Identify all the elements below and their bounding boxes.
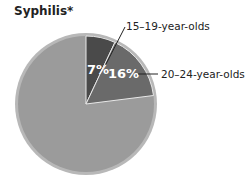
slice1-percent: 7% (87, 62, 109, 77)
callout1-label: 15–19-year-olds (126, 20, 210, 32)
slice2-percent: 16% (108, 66, 139, 81)
pie-chart: 7% 16% 15–19-year-olds 20–24-year-olds (0, 0, 250, 177)
callout2-label: 20–24-year-olds (161, 68, 245, 80)
